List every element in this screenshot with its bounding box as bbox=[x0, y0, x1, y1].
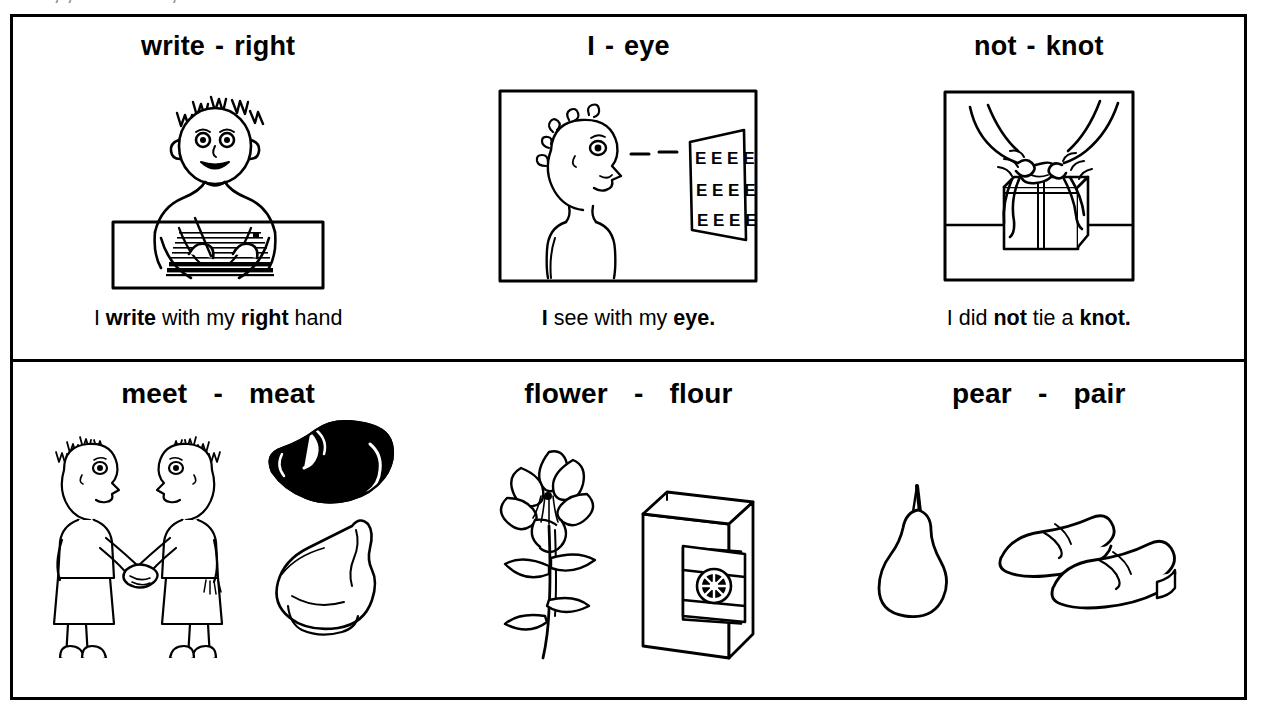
pear-drawing bbox=[871, 478, 963, 618]
caption-part: hand bbox=[289, 306, 343, 330]
worksheet-row-2: meet-meat bbox=[13, 362, 1244, 697]
headword-word-a: not bbox=[974, 31, 1017, 61]
picture-hands-tying-knot bbox=[834, 60, 1244, 308]
caption-part: I bbox=[94, 306, 106, 330]
headword-not-knot: not-knot bbox=[974, 33, 1104, 60]
headword-i-eye: I-eye bbox=[587, 33, 670, 60]
meat-cuts-drawing bbox=[252, 418, 402, 648]
headword-word-b: pair bbox=[1073, 378, 1125, 409]
picture-pear-and-pair-of-shoes bbox=[834, 408, 1244, 697]
headword-word-b: knot bbox=[1046, 31, 1104, 61]
headword-meet-meat: meet-meat bbox=[121, 380, 315, 408]
headword-word-a: pear bbox=[952, 378, 1012, 409]
cell-not-knot: not-knot bbox=[834, 17, 1244, 359]
headword-write-right: write-right bbox=[141, 33, 295, 60]
caption-write-right: I write with my right hand bbox=[94, 308, 343, 360]
caption-part: see with my bbox=[548, 306, 673, 330]
headword-dash: - bbox=[595, 31, 624, 61]
headword-word-a: flower bbox=[524, 378, 608, 409]
cell-flower-flour: flower-flour bbox=[423, 362, 833, 697]
cell-i-eye: I-eye bbox=[423, 17, 833, 359]
headword-word-b: meat bbox=[249, 378, 315, 409]
headword-flower-flour: flower-flour bbox=[524, 380, 732, 408]
headword-dash: - bbox=[205, 31, 234, 61]
flour-bag-drawing bbox=[633, 480, 765, 662]
headword-word-a: I bbox=[587, 31, 595, 61]
caption-part-bold: knot. bbox=[1079, 306, 1130, 330]
headword-dash: - bbox=[1017, 31, 1046, 61]
svg-text:E E E E: E E E E bbox=[695, 149, 755, 168]
svg-text:E E E E: E E E E bbox=[697, 211, 757, 230]
cell-write-right: write-right bbox=[13, 17, 423, 359]
two-people-shaking-hands-drawing bbox=[34, 408, 242, 658]
pair-of-shoes-drawing bbox=[981, 496, 1207, 618]
picture-person-reading-eye-chart: E E E E E E E E E E E E bbox=[423, 60, 833, 308]
svg-text:E E E E: E E E E bbox=[696, 181, 756, 200]
headword-word-b: eye bbox=[624, 31, 670, 61]
caption-part-bold: right bbox=[241, 306, 289, 330]
picture-person-writing bbox=[13, 60, 423, 308]
headword-pear-pair: pear-pair bbox=[952, 380, 1126, 408]
headword-word-a: write bbox=[141, 31, 205, 61]
caption-i-eye: I see with my eye. bbox=[542, 308, 715, 360]
caption-part-bold: not bbox=[993, 306, 1026, 330]
homophones-worksheet-table: write-right bbox=[10, 14, 1247, 700]
headword-dash: - bbox=[187, 378, 249, 409]
headword-word-a: meet bbox=[121, 378, 187, 409]
picture-meet-and-meat bbox=[13, 408, 423, 697]
cell-meet-meat: meet-meat bbox=[13, 362, 423, 697]
caption-part-bold: write bbox=[106, 306, 156, 330]
headword-word-b: right bbox=[234, 31, 295, 61]
caption-part-bold: eye. bbox=[673, 306, 715, 330]
caption-part: tie a bbox=[1027, 306, 1080, 330]
cell-pear-pair: pear-pair bbox=[834, 362, 1244, 697]
caption-part: I did bbox=[947, 306, 994, 330]
headword-dash: - bbox=[608, 378, 670, 409]
picture-flower-and-flour bbox=[423, 408, 833, 697]
lily-flower-drawing bbox=[491, 434, 611, 662]
headword-word-b: flour bbox=[669, 378, 732, 409]
caption-part: with my bbox=[156, 306, 241, 330]
caption-not-knot: I did not tie a knot. bbox=[947, 308, 1131, 360]
headword-dash: - bbox=[1012, 378, 1074, 409]
worksheet-row-1: write-right bbox=[13, 17, 1244, 362]
clipped-top-text: · , ,· · · · · · · ,· · · bbox=[0, 0, 1271, 12]
clipped-top-text-glyphs: · , ,· · · · · · · ,· · · bbox=[40, 0, 1220, 5]
